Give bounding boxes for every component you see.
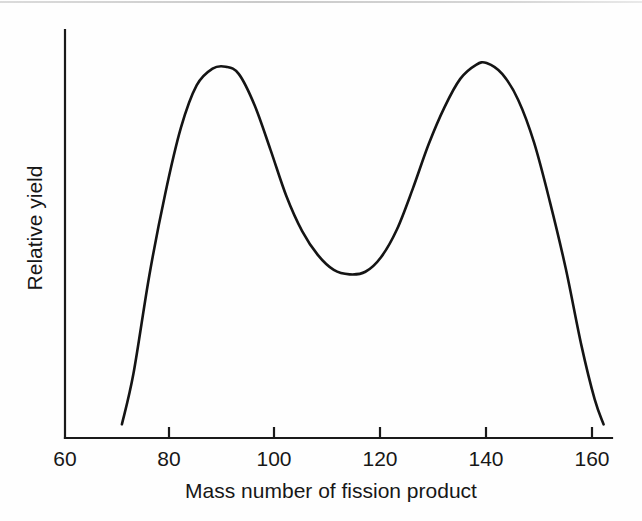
x-axis-ticks	[169, 427, 592, 438]
x-tick-label-80: 80	[157, 447, 180, 470]
x-tick-label-160: 160	[574, 447, 609, 470]
x-tick-label-100: 100	[256, 447, 291, 470]
x-tick-label-140: 140	[468, 447, 503, 470]
x-axis-tick-labels: 60 80 100 120 140 160	[53, 447, 609, 470]
fission-yield-chart: 60 80 100 120 140 160 Mass number of fis…	[0, 0, 642, 521]
fission-yield-figure: 60 80 100 120 140 160 Mass number of fis…	[0, 0, 642, 521]
x-axis-title: Mass number of fission product	[185, 479, 477, 502]
x-tick-label-60: 60	[53, 447, 76, 470]
fission-yield-curve	[122, 62, 604, 424]
x-tick-label-120: 120	[362, 447, 397, 470]
y-axis-title: Relative yield	[23, 166, 46, 291]
axes-group	[65, 30, 612, 438]
